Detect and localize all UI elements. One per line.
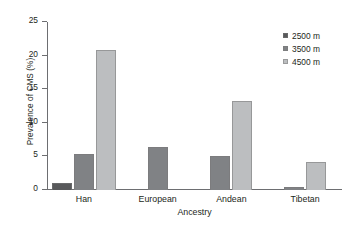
legend-item: 2500 m: [283, 30, 359, 41]
legend-item: 3500 m: [283, 43, 359, 54]
legend-swatch-icon: [283, 46, 288, 51]
legend-item: 4500 m: [283, 56, 359, 67]
y-tick-label: 20: [29, 49, 38, 59]
legend-swatch-icon: [283, 59, 288, 64]
legend-label: 4500 m: [292, 57, 320, 67]
bar: [148, 147, 168, 190]
x-axis-title: Ancestry: [47, 207, 342, 217]
bar: [210, 156, 230, 190]
y-tick-label: 25: [29, 15, 38, 25]
bar: [306, 162, 326, 190]
bar: [232, 101, 252, 190]
y-tick-label: 10: [29, 116, 38, 126]
y-tick-label: 0: [33, 183, 38, 193]
legend-swatch-icon: [283, 33, 288, 38]
chart-legend: 2500 m3500 m4500 m: [283, 30, 359, 69]
y-tick-label: 15: [29, 82, 38, 92]
y-tick-label: 5: [33, 149, 38, 159]
bar-group: [121, 22, 195, 190]
legend-label: 2500 m: [292, 31, 320, 41]
bar: [74, 154, 94, 190]
bar: [284, 187, 304, 190]
legend-label: 3500 m: [292, 44, 320, 54]
bar: [96, 50, 116, 190]
chart-figure: Prevalence of CMS (%) 0510152025 HanEuro…: [0, 0, 363, 235]
bar: [52, 183, 72, 190]
bar-group: [47, 22, 121, 190]
bar-group: [195, 22, 269, 190]
x-tick-label: Tibetan: [260, 194, 350, 204]
